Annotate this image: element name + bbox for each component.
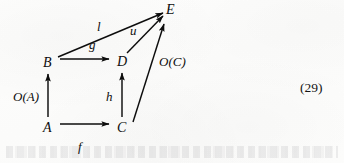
edge-label-f: f — [78, 140, 82, 153]
edge-label-h: h — [106, 90, 113, 103]
node-B: B — [43, 56, 52, 70]
edge-label-O-of-A: O(A) — [13, 90, 39, 103]
node-E: E — [166, 3, 175, 17]
edge-label-l: l — [97, 20, 101, 33]
node-D: D — [117, 55, 127, 69]
node-C: C — [117, 121, 126, 135]
edge-C-to-E — [133, 24, 164, 122]
edge-label-g: g — [89, 38, 96, 51]
commutative-diagram — [0, 0, 344, 163]
edge-label-O-of-C: O(C) — [159, 55, 186, 68]
figure-canvas: B D E A C l u g O(C) O(A) h f (29) — [0, 0, 344, 163]
edge-B-to-E — [58, 13, 163, 57]
equation-number: (29) — [300, 81, 323, 95]
edge-label-u: u — [130, 24, 137, 37]
node-A: A — [43, 121, 52, 135]
